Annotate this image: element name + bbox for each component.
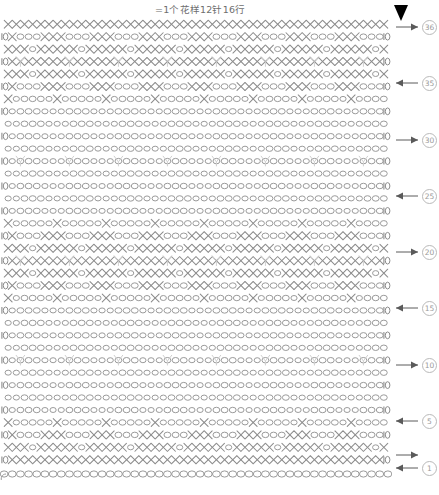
stitch-grid-svg	[0, 18, 392, 480]
row-number-badge: 1	[422, 461, 437, 476]
row-number-badge: 25	[422, 189, 437, 204]
pattern-repeat-legend: =1个花样12针16行	[155, 2, 245, 16]
arrow-right-icon	[394, 21, 420, 33]
arrow-right-icon	[394, 134, 420, 146]
row-label-20: 20	[394, 245, 437, 259]
row-label-15: 15	[394, 301, 437, 315]
arrow-left-icon	[394, 302, 420, 314]
arrow-right-icon	[394, 359, 420, 371]
row-number-badge: 36	[422, 20, 437, 35]
row-labels: 3635302520151051	[392, 18, 439, 480]
row-number-badge: 5	[422, 414, 437, 429]
row-number-badge: 10	[422, 358, 437, 373]
arrow-left-icon	[394, 77, 420, 89]
row-label-2	[394, 448, 420, 462]
row-number-badge: 30	[422, 133, 437, 148]
row-label-5: 5	[394, 414, 437, 428]
arrow-right-icon	[394, 449, 420, 461]
row-label-1: 1	[394, 461, 437, 475]
row-label-36: 36	[394, 20, 437, 34]
row-label-10: 10	[394, 358, 437, 372]
row-label-30: 30	[394, 133, 437, 147]
row-label-35: 35	[394, 76, 437, 90]
row-number-badge: 20	[422, 245, 437, 260]
crochet-chart: =1个花样12针16行 3635302520151051	[0, 0, 439, 495]
row-label-25: 25	[394, 189, 437, 203]
stitch-grid	[0, 18, 392, 480]
row-number-badge: 15	[422, 301, 437, 316]
row-number-badge: 35	[422, 76, 437, 91]
arrow-left-icon	[394, 462, 420, 474]
arrow-right-icon	[394, 246, 420, 258]
arrow-left-icon	[394, 415, 420, 427]
chart-legend-bar: =1个花样12针16行	[0, 0, 439, 18]
arrow-left-icon	[394, 190, 420, 202]
